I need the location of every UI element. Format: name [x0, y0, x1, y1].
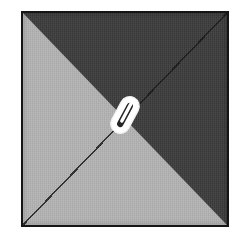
diagonal-split-square[interactable] [21, 11, 229, 227]
thumbnail-canvas: Square thumbnail split diagonally into l… [0, 0, 248, 248]
